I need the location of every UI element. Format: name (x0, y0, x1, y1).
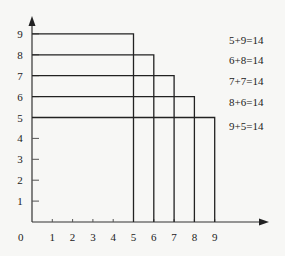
x-tick-label: 1 (50, 231, 56, 243)
y-tick-label: 2 (17, 174, 23, 186)
x-tick-label: 8 (192, 231, 198, 243)
equation-label: 8+6=14 (229, 96, 264, 108)
equation-label: 9+5=14 (229, 120, 264, 132)
x-tick-label: 5 (131, 231, 137, 243)
equation-label: 7+7=14 (229, 75, 264, 87)
y-tick-label: 1 (17, 195, 23, 207)
x-tick-label: 7 (171, 231, 177, 243)
equation-label: 5+9=14 (229, 34, 264, 46)
x-tick-label: 4 (110, 231, 116, 243)
y-tick-label: 8 (17, 49, 23, 61)
x-tick-label: 3 (90, 231, 96, 243)
equation-label: 6+8=14 (229, 54, 264, 66)
rectangle-outline (32, 34, 134, 222)
y-tick-label: 7 (17, 70, 23, 82)
rectangles (32, 34, 215, 222)
y-tick-label: 9 (17, 28, 23, 40)
rectangle-outline (32, 118, 215, 223)
y-tick-label: 4 (17, 132, 23, 144)
origin-label: 0 (18, 231, 24, 243)
x-tick-labels: 123456789 (50, 231, 218, 243)
x-axis-arrow-icon (259, 219, 269, 226)
rectangle-outline (32, 76, 174, 222)
y-tick-label: 6 (17, 91, 23, 103)
axes (32, 22, 262, 222)
rectangle-outline (32, 97, 194, 222)
y-axis-arrow-icon (29, 16, 36, 26)
x-tick-label: 6 (151, 231, 157, 243)
y-tick-labels: 123456789 (17, 28, 23, 207)
x-tick-label: 2 (70, 231, 76, 243)
tick-marks (32, 34, 215, 222)
y-tick-label: 5 (17, 112, 23, 124)
rectangle-outline (32, 55, 154, 222)
y-tick-label: 3 (17, 153, 23, 165)
equations: 5+9=146+8=147+7=148+6=149+5=14 (229, 34, 264, 132)
diagram-canvas: 123456789 123456789 0 5+9=146+8=147+7=14… (0, 0, 285, 256)
x-tick-label: 9 (212, 231, 218, 243)
